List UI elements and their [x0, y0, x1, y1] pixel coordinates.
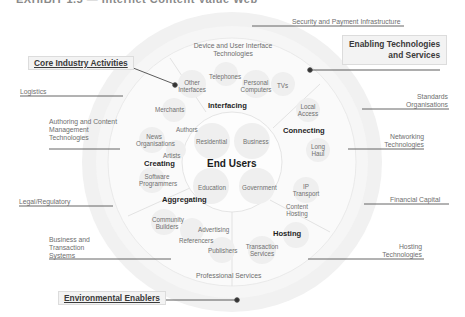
- category-creating: Creating: [144, 159, 175, 168]
- environmental-enablers-callout: Environmental Enablers: [58, 291, 166, 305]
- segment-government: Government: [242, 184, 277, 191]
- enabling-line-2: and Services: [349, 50, 440, 61]
- player-tvs: TVs: [277, 82, 288, 89]
- end-users-title: End Users: [207, 158, 256, 169]
- label-device-ui-tech: Device and User Interface Technologies: [188, 42, 278, 58]
- label-logistics: Logistics: [20, 88, 46, 96]
- label-legal-regulatory: Legal/Regulatory: [19, 198, 70, 206]
- player-publishers: Publishers: [208, 247, 237, 254]
- player-telephones: Telephones: [209, 73, 241, 80]
- segment-residential: Residential: [196, 138, 227, 145]
- player-long-haul: Long Haul: [308, 143, 328, 158]
- label-business-transaction: Business and Transaction Systems: [49, 236, 111, 260]
- category-connecting: Connecting: [283, 126, 325, 135]
- player-advertising: Advertising: [198, 226, 229, 233]
- category-hosting: Hosting: [273, 229, 301, 238]
- label-authoring-tech: Authoring and Content Management Technol…: [49, 118, 121, 142]
- player-merchants: Merchants: [155, 106, 184, 113]
- label-standards-orgs: Standards Organisations: [388, 93, 448, 109]
- player-referencers: Referencers: [179, 237, 213, 244]
- player-transaction-services: Transaction Services: [244, 243, 280, 258]
- enabling-line-1: Enabling Technologies: [349, 39, 440, 50]
- enabling-technologies-callout: Enabling Technologies and Services: [342, 35, 447, 65]
- player-personal-computers: Personal Computers: [240, 79, 272, 94]
- label-financial-capital: Financial Capital: [390, 196, 440, 204]
- player-ip-transport: IP Transport: [292, 183, 320, 198]
- label-networking-tech: Networking Technologies: [370, 133, 424, 149]
- category-aggregating: Aggregating: [162, 195, 207, 204]
- segment-business: Business: [243, 138, 269, 145]
- player-content-hosting: Content Hosting: [282, 203, 312, 218]
- player-community-builders: Community Builders: [152, 216, 182, 231]
- label-hosting-tech: Hosting Technologies: [368, 243, 422, 259]
- label-security-payment: Security and Payment Infrastructure: [292, 18, 400, 26]
- category-interfacing: Interfacing: [208, 101, 247, 110]
- player-local-access: Local Access: [296, 103, 320, 118]
- label-professional-services: Professional Services: [196, 272, 261, 280]
- player-artists: Artists: [163, 152, 181, 159]
- core-industry-activities-callout: Core Industry Activities: [28, 56, 134, 70]
- player-software-programmers: Software Programmers: [139, 173, 175, 188]
- segment-education: Education: [198, 184, 226, 191]
- player-authors: Authors: [176, 126, 198, 133]
- player-other-interfaces: Other Interfaces: [178, 79, 206, 94]
- player-news-organisations: News Organisations: [136, 133, 172, 148]
